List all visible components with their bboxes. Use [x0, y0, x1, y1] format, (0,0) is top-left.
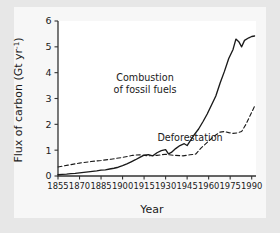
x-tick-label: 1915: [133, 181, 154, 191]
fossil-fuels-label-line2: of fossil fuels: [114, 84, 177, 95]
fossil-fuels-label-line1: Combustion: [116, 72, 173, 83]
y-tick-label: 0: [45, 170, 51, 181]
y-axis-label-superscript: -1: [12, 42, 21, 49]
x-tick-label: 1960: [198, 181, 219, 191]
x-tick-label: 1975: [220, 181, 241, 191]
x-tick-labels: 1855187018851900191519301945196019751990: [47, 181, 262, 191]
y-axis-label-main: Flux of carbon (Gt yr: [12, 48, 25, 162]
figure-container: 1855187018851900191519301945196019751990…: [0, 0, 280, 233]
x-axis-label: Year: [139, 203, 164, 216]
y-tick-label: 6: [45, 15, 51, 26]
carbon-flux-chart: 1855187018851900191519301945196019751990…: [0, 0, 280, 233]
y-tick-label: 2: [45, 119, 51, 130]
x-tick-label: 1885: [90, 181, 111, 191]
x-tick-label: 1930: [155, 181, 176, 191]
y-tick-labels: 0123456: [45, 15, 51, 181]
y-axis-label: Flux of carbon (Gt yr-1): [12, 37, 25, 162]
x-tick-label: 1855: [47, 181, 68, 191]
svg-text:Flux of carbon (Gt yr-1): Flux of carbon (Gt yr-1): [12, 37, 25, 162]
y-axis-label-close: ): [12, 37, 25, 41]
x-tick-label: 1945: [176, 181, 197, 191]
y-tick-label: 3: [45, 93, 51, 104]
deforestation-label: Deforestation: [157, 132, 222, 143]
x-tick-label: 1990: [241, 181, 262, 191]
x-tick-label: 1900: [112, 181, 133, 191]
y-tick-label: 4: [45, 67, 51, 78]
y-tick-label: 1: [45, 145, 51, 156]
y-tick-label: 5: [45, 41, 51, 52]
series-annotation-fossil-fuels: Combustion of fossil fuels: [114, 72, 177, 95]
x-tick-label: 1870: [69, 181, 90, 191]
